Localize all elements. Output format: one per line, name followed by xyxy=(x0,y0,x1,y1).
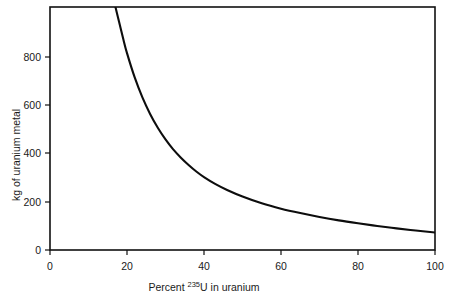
figure-background xyxy=(0,0,451,300)
x-axis-title-prefix: Percent xyxy=(148,281,187,293)
y-tick-label-400: 400 xyxy=(23,147,41,159)
x-tick-label-60: 60 xyxy=(275,260,287,272)
chart-figure: 800 600 400 200 0 0 20 40 60 80 100 kg o… xyxy=(0,0,451,300)
x-tick-label-40: 40 xyxy=(198,260,210,272)
y-tick-label-200: 200 xyxy=(23,196,41,208)
y-tick-label-800: 800 xyxy=(23,51,41,63)
x-tick-label-0: 0 xyxy=(47,260,53,272)
x-axis-title-superscript: 235 xyxy=(188,280,201,289)
x-tick-label-20: 20 xyxy=(121,260,133,272)
y-tick-label-600: 600 xyxy=(23,99,41,111)
x-axis-title-suffix: U in uranium xyxy=(200,281,260,293)
y-tick-label-0: 0 xyxy=(35,244,41,256)
plot-svg: 800 600 400 200 0 0 20 40 60 80 100 kg o… xyxy=(0,0,451,300)
x-tick-label-80: 80 xyxy=(352,260,364,272)
y-axis-title: kg of uranium metal xyxy=(10,109,22,201)
x-axis-title: Percent 235U in uranium xyxy=(148,280,259,293)
x-tick-label-100: 100 xyxy=(426,260,444,272)
